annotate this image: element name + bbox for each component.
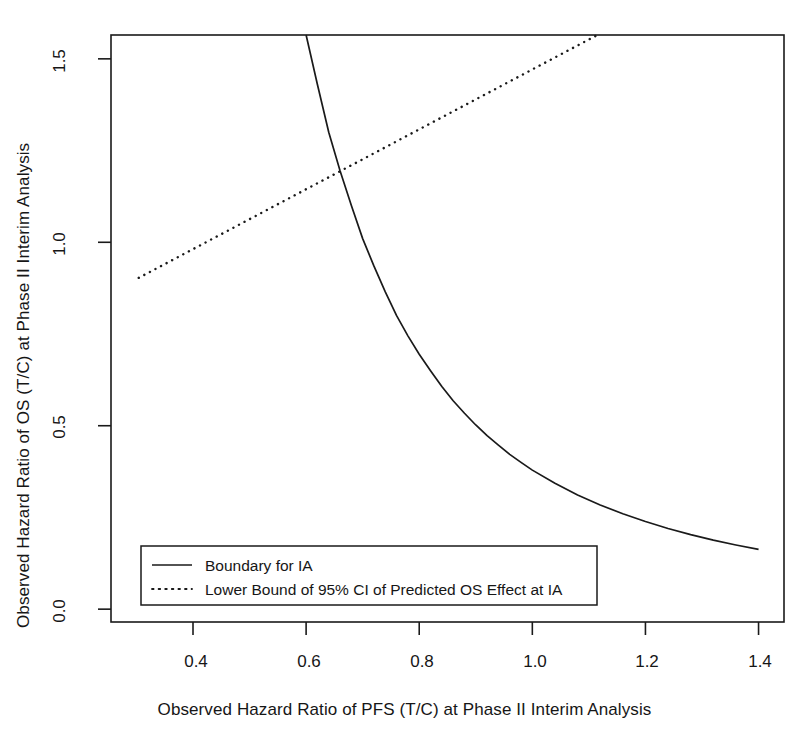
data-series-layer [139,35,759,549]
chart-legend: Boundary for IA Lower Bound of 95% CI of… [141,546,597,605]
series-1-line [306,35,758,549]
y-axis-ticks [98,59,111,609]
plot-frame [111,35,784,622]
x-axis-ticks [193,622,759,635]
series-2-line [139,35,598,278]
chart-figure: Observed Hazard Ratio of OS (T/C) at Pha… [0,0,809,743]
plot-area: Boundary for IA Lower Bound of 95% CI of… [0,0,809,743]
legend-label-boundary: Boundary for IA [205,557,313,574]
legend-label-lower-bound: Lower Bound of 95% CI of Predicted OS Ef… [205,581,563,598]
